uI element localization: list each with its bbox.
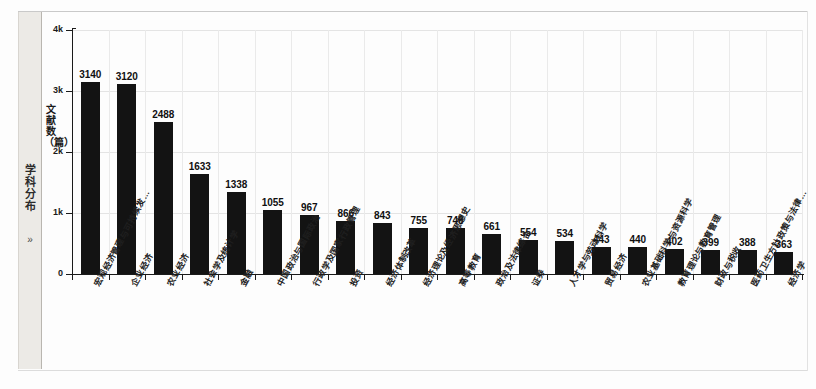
bar-value-label: 534 [545, 228, 585, 239]
bar[interactable] [628, 247, 647, 274]
bar-value-label: 1633 [180, 161, 220, 172]
bar[interactable] [154, 122, 173, 274]
x-axis-tick [802, 274, 803, 280]
grid-line-vertical [291, 30, 292, 274]
x-axis-tick [693, 274, 694, 280]
bar-value-label: 2488 [143, 109, 183, 120]
y-axis-tick [66, 91, 73, 92]
x-axis-tick [364, 274, 365, 280]
grid-line-vertical [364, 30, 365, 274]
bar[interactable] [81, 82, 100, 274]
bar[interactable] [774, 252, 793, 274]
x-axis-tick [72, 274, 73, 280]
grid-line-vertical [474, 30, 475, 274]
x-axis-tick [401, 274, 402, 280]
bar-value-label: 1055 [253, 197, 293, 208]
bar[interactable] [190, 174, 209, 274]
grid-line-vertical [182, 30, 183, 274]
x-axis-tick [474, 274, 475, 280]
bar[interactable] [701, 250, 720, 274]
y-axis-title: 文献数（篇） [44, 104, 57, 148]
x-axis-tick [510, 274, 511, 280]
grid-line-vertical [328, 30, 329, 274]
x-axis-tick [547, 274, 548, 280]
bar[interactable] [263, 210, 282, 274]
bar[interactable] [555, 241, 574, 274]
bar-value-label: 1338 [216, 179, 256, 190]
x-axis-tick [620, 274, 621, 280]
bar-chart: 文献数（篇） 01k2k3k4k 31403120248816331338105… [42, 12, 808, 369]
grid-line-vertical [437, 30, 438, 274]
grid-line-vertical [255, 30, 256, 274]
x-axis-tick [218, 274, 219, 280]
sidebar-tab-label: 学科分布 [23, 164, 37, 212]
page-bottom-divider [18, 370, 808, 371]
y-axis-tick-label: 3k [42, 85, 63, 95]
x-axis-tick [656, 274, 657, 280]
grid-line-vertical [109, 30, 110, 274]
y-axis-tick-label: 0 [42, 268, 63, 278]
x-axis-tick [255, 274, 256, 280]
x-axis-tick [182, 274, 183, 280]
grid-line-vertical [802, 30, 803, 274]
x-axis-tick [583, 274, 584, 280]
grid-line-vertical [218, 30, 219, 274]
bar[interactable] [373, 223, 392, 274]
grid-line-vertical [401, 30, 402, 274]
bar-value-label: 3120 [107, 71, 147, 82]
bar-value-label: 3140 [70, 69, 110, 80]
bar-value-label: 755 [399, 215, 439, 226]
x-axis-tick [729, 274, 730, 280]
y-axis-cap [72, 28, 76, 29]
sidebar-tab-discipline-distribution[interactable]: 学科分布 » [18, 12, 42, 369]
chart-page: 学科分布 » 文献数（篇） 01k2k3k4k 3140312024881633… [0, 0, 816, 389]
x-axis-tick [437, 274, 438, 280]
y-axis-tick-label: 4k [42, 24, 63, 34]
y-axis-tick-label: 1k [42, 207, 63, 217]
bar-value-label: 440 [618, 234, 658, 245]
bar[interactable] [738, 250, 757, 274]
y-axis-tick [66, 30, 73, 31]
x-axis-tick [145, 274, 146, 280]
chevron-right-icon: » [27, 234, 33, 245]
y-axis-tick-label: 2k [42, 146, 63, 156]
x-axis-tick [766, 274, 767, 280]
grid-line-vertical [145, 30, 146, 274]
y-axis-tick [66, 213, 73, 214]
bar-value-label: 661 [472, 221, 512, 232]
x-axis-tick [109, 274, 110, 280]
bar[interactable] [482, 234, 501, 274]
x-axis-tick [328, 274, 329, 280]
bar-value-label: 843 [362, 210, 402, 221]
x-axis-tick [291, 274, 292, 280]
y-axis-tick [66, 152, 73, 153]
bar-value-label: 967 [289, 202, 329, 213]
